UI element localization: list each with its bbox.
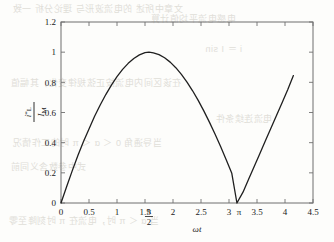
x-axis-ticks	[61, 199, 313, 203]
y-axis-ticks-right	[309, 22, 313, 203]
line-chart: 00.511.522.533.544.5 00.20.40.60.811.2 π…	[0, 0, 334, 242]
x-tick-label: 0.5	[83, 207, 95, 217]
plot-frame	[61, 22, 313, 203]
y-tick-label: 0	[52, 198, 57, 208]
x-axis-tick-labels: 00.511.522.533.544.5	[59, 207, 319, 217]
y-tick-label: 0.4	[45, 138, 57, 148]
y-axis-title-numerator: i*L	[23, 107, 34, 117]
x-tick-label: 2	[171, 207, 176, 217]
x-tick-label: 0	[59, 207, 64, 217]
y-tick-label: 0.8	[45, 78, 57, 88]
pi-over-2-annotation: π 2	[145, 206, 153, 227]
y-axis-ticks	[61, 22, 65, 203]
y-tick-label: 0.2	[45, 168, 56, 178]
x-axis-title: ωt	[193, 224, 202, 234]
y-axis-title: i*L IM	[23, 102, 49, 122]
x-tick-label: 2.5	[195, 207, 207, 217]
x-tick-label: 4	[283, 207, 288, 217]
data-series-normalized-inductor-current	[61, 52, 293, 203]
y-tick-label: 1	[52, 47, 57, 57]
x-tick-label: 3	[227, 207, 232, 217]
x-tick-label: 3.5	[251, 207, 263, 217]
x-tick-label: 1	[115, 207, 120, 217]
x-tick-label: 4.5	[307, 207, 319, 217]
pi-over-2-denominator: 2	[147, 217, 152, 227]
y-tick-label: 1.2	[45, 17, 56, 27]
pi-over-2-numerator: π	[147, 206, 152, 216]
x-axis-ticks-top	[61, 22, 313, 26]
pi-annotation: π	[237, 207, 242, 217]
